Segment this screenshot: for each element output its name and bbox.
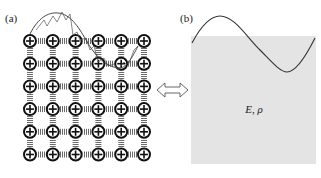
spring-vertical	[118, 93, 124, 102]
mass-node-icon	[47, 80, 59, 92]
spring-vertical	[27, 116, 33, 125]
mass-spring-lattice	[24, 35, 150, 161]
spring-vertical	[73, 71, 79, 80]
mass-node-icon	[47, 149, 59, 161]
spring-horizontal	[128, 83, 137, 89]
mass-node-icon	[92, 58, 104, 70]
mass-node-icon	[92, 80, 104, 92]
spring-vertical	[141, 48, 147, 57]
spring-horizontal	[105, 129, 114, 135]
spring-horizontal	[60, 152, 69, 158]
mass-node-icon	[24, 35, 36, 47]
mass-node-icon	[24, 149, 36, 161]
spring-vertical	[27, 71, 33, 80]
mass-node-icon	[92, 35, 104, 47]
mass-node-icon	[92, 126, 104, 138]
mass-node-icon	[24, 103, 36, 115]
mass-node-icon	[47, 126, 59, 138]
spring-horizontal	[37, 61, 46, 67]
mass-node-icon	[92, 149, 104, 161]
mass-node-icon	[70, 80, 82, 92]
mass-node-icon	[70, 35, 82, 47]
spring-horizontal	[128, 106, 137, 112]
mass-node-icon	[47, 58, 59, 70]
spring-vertical	[50, 48, 56, 57]
spring-horizontal	[83, 61, 92, 67]
spring-horizontal	[128, 38, 137, 44]
mass-node-icon	[70, 103, 82, 115]
spring-horizontal	[105, 152, 114, 158]
spring-vertical	[73, 93, 79, 102]
spring-vertical	[95, 71, 101, 80]
spring-horizontal	[37, 129, 46, 135]
spring-vertical	[27, 139, 33, 148]
spring-horizontal	[105, 38, 114, 44]
spring-vertical	[118, 48, 124, 57]
material-properties-label: E, ρ	[245, 103, 263, 115]
spring-vertical	[50, 139, 56, 148]
spring-horizontal	[60, 38, 69, 44]
spring-horizontal	[83, 83, 92, 89]
spring-vertical	[141, 93, 147, 102]
double-arrow-icon	[157, 83, 188, 97]
spring-vertical	[73, 48, 79, 57]
spring-vertical	[50, 116, 56, 125]
mass-node-icon	[115, 103, 127, 115]
mass-node-icon	[24, 80, 36, 92]
mass-node-icon	[138, 35, 150, 47]
mass-node-icon	[24, 58, 36, 70]
spring-horizontal	[37, 152, 46, 158]
spring-horizontal	[83, 152, 92, 158]
mass-node-icon	[115, 80, 127, 92]
spring-horizontal	[37, 106, 46, 112]
spring-vertical	[118, 116, 124, 125]
spring-horizontal	[37, 83, 46, 89]
mass-node-icon	[138, 149, 150, 161]
mass-node-icon	[115, 149, 127, 161]
mass-node-icon	[115, 126, 127, 138]
spring-horizontal	[105, 106, 114, 112]
spring-horizontal	[37, 38, 46, 44]
mass-node-icon	[92, 103, 104, 115]
spring-vertical	[50, 93, 56, 102]
spring-horizontal	[128, 152, 137, 158]
spring-vertical	[73, 139, 79, 148]
spring-horizontal	[60, 61, 69, 67]
spring-vertical	[141, 139, 147, 148]
mass-node-icon	[70, 149, 82, 161]
spring-vertical	[118, 139, 124, 148]
mass-node-icon	[138, 58, 150, 70]
spring-vertical	[95, 116, 101, 125]
spring-vertical	[95, 139, 101, 148]
mass-node-icon	[138, 126, 150, 138]
spring-vertical	[141, 116, 147, 125]
mass-node-icon	[138, 103, 150, 115]
spring-vertical	[27, 48, 33, 57]
mass-node-icon	[47, 35, 59, 47]
mass-node-icon	[24, 126, 36, 138]
spring-vertical	[118, 71, 124, 80]
continuum-medium	[191, 36, 316, 164]
spring-horizontal	[83, 129, 92, 135]
spring-vertical	[73, 116, 79, 125]
diagram-canvas	[0, 0, 321, 178]
mass-node-icon	[47, 103, 59, 115]
mass-node-icon	[138, 80, 150, 92]
spring-horizontal	[83, 106, 92, 112]
spring-vertical	[95, 93, 101, 102]
spring-horizontal	[60, 129, 69, 135]
spring-horizontal	[60, 83, 69, 89]
spring-horizontal	[105, 83, 114, 89]
spring-vertical	[27, 93, 33, 102]
mass-node-icon	[70, 126, 82, 138]
spring-horizontal	[128, 129, 137, 135]
mass-node-icon	[115, 35, 127, 47]
spring-vertical	[141, 71, 147, 80]
mass-node-icon	[70, 58, 82, 70]
spring-vertical	[50, 71, 56, 80]
spring-horizontal	[60, 106, 69, 112]
